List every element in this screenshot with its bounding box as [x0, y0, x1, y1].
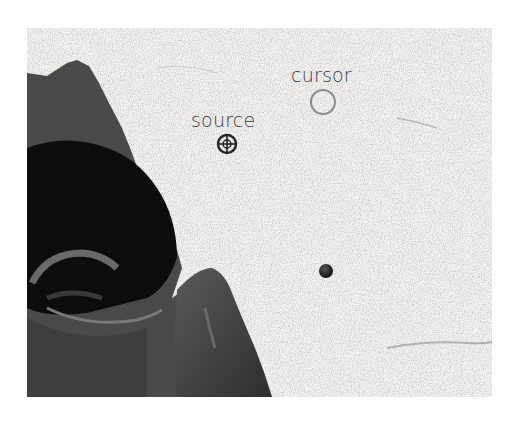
sample-dot	[319, 264, 333, 278]
source-label: source	[191, 109, 255, 131]
source-crosshair-icon	[217, 134, 237, 154]
cursor-label: cursor	[291, 64, 352, 86]
image-canvas: cursor source	[27, 28, 492, 397]
stone-texture	[27, 28, 492, 397]
